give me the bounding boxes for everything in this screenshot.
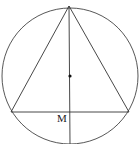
geometry-diagram: M bbox=[0, 0, 139, 144]
label-m: M bbox=[57, 112, 67, 124]
center-point bbox=[68, 74, 71, 77]
